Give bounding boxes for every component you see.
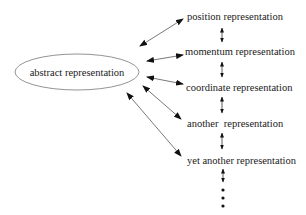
- arrow-to-another: [143, 86, 181, 119]
- momentum-representation-label: momentum representation: [185, 46, 296, 57]
- arrow-to-coordinate: [147, 77, 183, 84]
- dot: [221, 196, 224, 199]
- another-representation-label: another representation: [187, 118, 284, 129]
- dot: [221, 204, 224, 207]
- position-representation-label: position representation: [187, 11, 284, 22]
- representation-diagram: abstract representation position represe…: [0, 0, 306, 215]
- arrow-to-yet-another: [127, 93, 181, 156]
- dot: [221, 188, 224, 191]
- abstract-representation-label: abstract representation: [30, 67, 125, 78]
- yet-another-representation-label: yet another representation: [187, 155, 297, 166]
- abstract-representation-node: abstract representation: [15, 54, 139, 90]
- arrow-to-momentum: [147, 55, 183, 61]
- coordinate-representation-label: coordinate representation: [186, 82, 293, 93]
- representation-labels: position representation momentum represe…: [185, 11, 297, 166]
- connector-arrows: [127, 19, 183, 156]
- arrow-to-position: [140, 19, 183, 46]
- continuation-dots: [221, 188, 224, 207]
